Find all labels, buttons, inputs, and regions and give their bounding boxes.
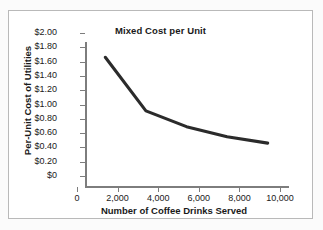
x-tick-mark: [199, 187, 200, 192]
y-tick-mark: [80, 162, 85, 163]
x-tick-mark: [118, 187, 119, 192]
y-tick-mark: [80, 119, 85, 120]
y-tick-label: $0.40: [13, 141, 57, 151]
y-tick-mark: [80, 62, 85, 63]
y-tick-label: $1.80: [13, 41, 57, 51]
x-tick-label: 10,000: [255, 193, 305, 203]
y-tick-mark: [80, 147, 85, 148]
y-tick-mark: [80, 133, 85, 134]
chart-frame: Mixed Cost per Unit Per-Unit Cost of Uti…: [8, 10, 313, 219]
y-tick-label: $1.60: [13, 56, 57, 66]
x-tick-mark: [280, 187, 281, 192]
y-tick-mark: [80, 90, 85, 91]
x-tick-mark: [158, 187, 159, 192]
y-axis-line: [85, 42, 87, 187]
y-tick-mark: [80, 76, 85, 77]
y-tick-label: $0.60: [13, 127, 57, 137]
y-tick-mark: [80, 105, 85, 106]
y-tick-label: $0.80: [13, 113, 57, 123]
y-tick-label: $1.40: [13, 70, 57, 80]
x-tick-mark: [239, 187, 240, 192]
x-tick-mark: [77, 187, 78, 192]
y-tick-label: $2.00: [13, 27, 57, 37]
x-axis-title: Number of Coffee Drinks Served: [49, 205, 299, 216]
y-tick-mark: [80, 33, 85, 34]
y-tick-label: $1.00: [13, 99, 57, 109]
x-axis-line: [85, 186, 289, 188]
y-tick-label: $0: [13, 170, 57, 180]
y-tick-mark: [80, 176, 85, 177]
y-tick-mark: [80, 47, 85, 48]
series-line-utilities: [105, 57, 267, 143]
y-tick-label: $1.20: [13, 84, 57, 94]
y-tick-label: $0.20: [13, 156, 57, 166]
